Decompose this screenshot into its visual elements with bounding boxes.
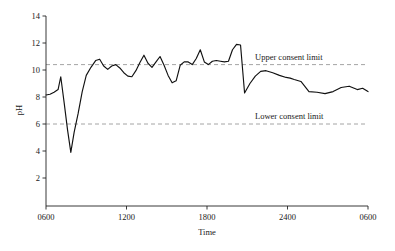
y-tick-label: 14 bbox=[32, 11, 41, 21]
chart-container: 2468101214 06001200180024000600 Upper co… bbox=[0, 0, 395, 251]
y-tick-label: 2 bbox=[36, 173, 40, 183]
y-axis-title: pH bbox=[14, 105, 24, 115]
consent-limit-label: Lower consent limit bbox=[255, 111, 324, 121]
y-tick-label: 10 bbox=[32, 65, 41, 75]
consent-limit-label: Upper consent limit bbox=[255, 52, 323, 62]
y-tick-label: 12 bbox=[32, 38, 41, 48]
x-tick-label: 1800 bbox=[199, 212, 216, 222]
y-tick-label: 8 bbox=[36, 92, 40, 102]
ph-time-series-chart: 2468101214 06001200180024000600 Upper co… bbox=[0, 0, 395, 251]
x-tick-label: 0600 bbox=[360, 212, 377, 222]
x-tick-label: 1200 bbox=[118, 212, 135, 222]
x-tick-label: 2400 bbox=[279, 212, 296, 222]
chart-background bbox=[0, 0, 395, 251]
y-tick-label: 6 bbox=[36, 119, 40, 129]
x-tick-label: 0600 bbox=[38, 212, 55, 222]
x-axis-title: Time bbox=[198, 227, 216, 237]
